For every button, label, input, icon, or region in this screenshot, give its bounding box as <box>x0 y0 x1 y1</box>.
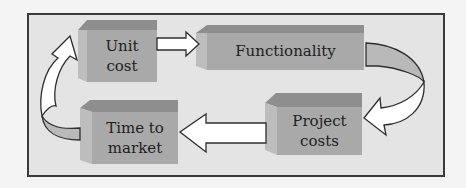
node-label-functionality: Functionality <box>207 41 364 61</box>
arrow-functionality-to-project-costs <box>364 43 424 135</box>
node-label-project-costs: Project costs <box>277 111 362 151</box>
arrow-project-costs-to-time-to-market <box>180 114 266 152</box>
arrow-time-to-market-to-unit-cost <box>41 36 80 140</box>
diagram-canvas <box>0 0 466 188</box>
arrow-unit-cost-to-functionality <box>157 32 199 56</box>
node-label-unit-cost: Unit cost <box>87 36 157 76</box>
node-label-time-to-market: Time to market <box>92 118 178 158</box>
